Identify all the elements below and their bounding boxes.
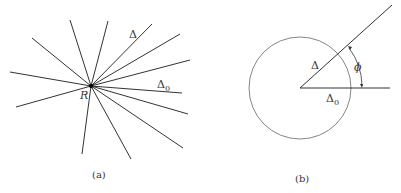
center-point-r	[89, 84, 93, 88]
caption-a: (a)	[92, 169, 106, 180]
line	[91, 21, 108, 86]
label-phi: ϕ	[354, 61, 362, 74]
label-delta-b: Δ	[311, 59, 319, 72]
caption-b: (b)	[295, 173, 309, 184]
line	[91, 34, 180, 86]
arrowhead-top	[348, 46, 352, 50]
line	[91, 60, 190, 86]
line	[32, 38, 91, 86]
arrowhead-bottom	[360, 84, 363, 88]
label-delta0-b: Δ0	[326, 92, 339, 107]
figure: R Δ Δ0 (a) ϕ Δ Δ0 (b)	[0, 0, 401, 193]
ray-delta	[300, 5, 392, 88]
label-delta-a: Δ	[129, 28, 137, 41]
line	[91, 24, 152, 86]
label-r: R	[79, 89, 88, 102]
line	[91, 86, 131, 159]
line	[91, 86, 183, 148]
line	[10, 72, 91, 86]
line	[70, 20, 91, 86]
label-delta0-a: Δ0	[157, 78, 170, 93]
